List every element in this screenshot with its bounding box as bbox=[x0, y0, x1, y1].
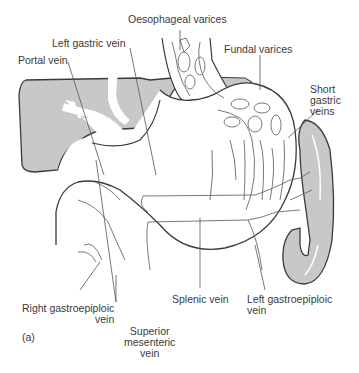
label-left-gastroepiploic-vein: Left gastroepiploic vein bbox=[247, 294, 332, 316]
label-splenic-vein: Splenic vein bbox=[172, 294, 229, 305]
label-left-gastric-vein: Left gastric vein bbox=[52, 38, 126, 49]
label-superior-mesenteric-vein: Superior mesenteric vein bbox=[124, 326, 175, 359]
label-right-gastroepiploic-vein: Right gastroepiploic vein bbox=[22, 303, 114, 325]
panel-label: (a) bbox=[22, 332, 35, 343]
label-portal-vein: Portal vein bbox=[18, 55, 68, 66]
label-oesophageal-varices: Oesophageal varices bbox=[128, 14, 227, 25]
label-fundal-varices: Fundal varices bbox=[224, 44, 292, 55]
label-short-gastric-veins: Short gastric veins bbox=[310, 84, 341, 117]
